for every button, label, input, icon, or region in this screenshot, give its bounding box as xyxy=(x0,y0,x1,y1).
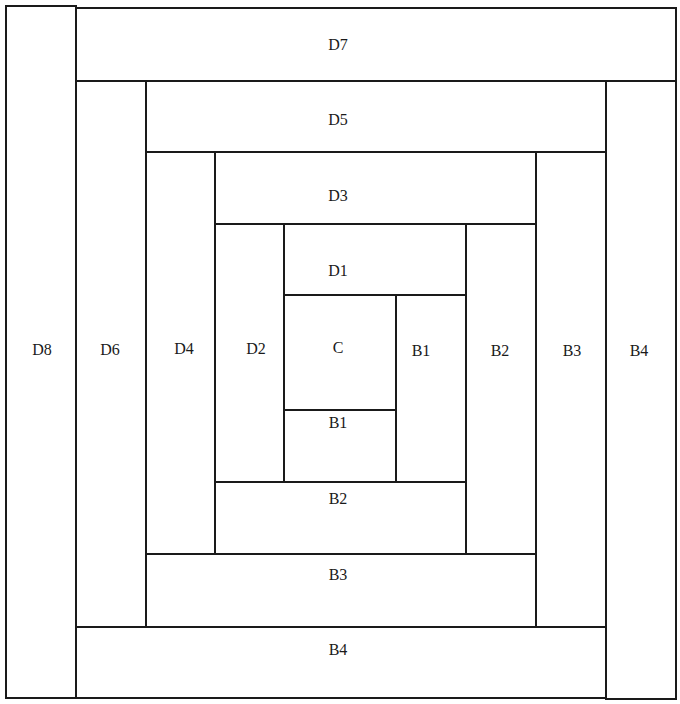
piece-label-d8: D8 xyxy=(32,342,52,358)
piece-label-d3: D3 xyxy=(328,188,348,204)
piece-d1 xyxy=(283,223,467,296)
piece-label-d7: D7 xyxy=(328,37,348,53)
piece-label-b3-right: B3 xyxy=(563,343,582,359)
piece-b1-right xyxy=(395,294,467,483)
log-cabin-diagram: D8D7D6D5B4D4D3B3D2D1B2CB1B1B2B3B4 xyxy=(0,0,680,704)
piece-d5 xyxy=(145,80,607,153)
piece-label-c: C xyxy=(333,340,344,356)
piece-label-b4-bottom: B4 xyxy=(329,642,348,658)
piece-b3-right xyxy=(535,151,607,628)
piece-b3-bottom xyxy=(145,553,537,628)
piece-label-b1-right: B1 xyxy=(412,343,431,359)
piece-d3 xyxy=(214,151,537,225)
piece-label-d5: D5 xyxy=(328,112,348,128)
piece-b4-right xyxy=(605,80,677,700)
piece-label-d1: D1 xyxy=(328,263,348,279)
piece-label-b3-bottom: B3 xyxy=(329,567,348,583)
piece-d7 xyxy=(75,7,677,82)
piece-label-b1-bottom: B1 xyxy=(329,415,348,431)
piece-b2-right xyxy=(465,223,537,555)
piece-label-d4: D4 xyxy=(174,341,194,357)
piece-b4-bottom xyxy=(75,626,607,699)
piece-label-d6: D6 xyxy=(100,342,120,358)
piece-label-b2-right: B2 xyxy=(491,343,510,359)
piece-label-b4-right: B4 xyxy=(630,343,649,359)
piece-label-d2: D2 xyxy=(246,341,266,357)
piece-label-b2-bottom: B2 xyxy=(329,491,348,507)
